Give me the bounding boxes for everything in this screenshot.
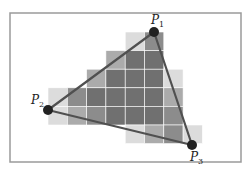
rasterization-diagram: P1P2P3 [0,0,250,172]
vertex-p2-dot [43,105,53,115]
pixel-cell [87,88,106,107]
pixel-cell [106,106,125,125]
pixel-cell [125,69,144,88]
vertex-p3-dot [187,140,197,150]
pixel-cell [106,69,125,88]
pixel-cell [125,125,144,144]
pixel-cell [145,88,164,107]
pixel-cell [125,106,144,125]
pixel-cell [125,88,144,107]
vertex-p1-dot [149,27,159,37]
pixel-cell [145,69,164,88]
pixel-cell [67,88,86,107]
pixel-cell [106,88,125,107]
pixel-cell [125,51,144,70]
pixel-cell [145,106,164,125]
